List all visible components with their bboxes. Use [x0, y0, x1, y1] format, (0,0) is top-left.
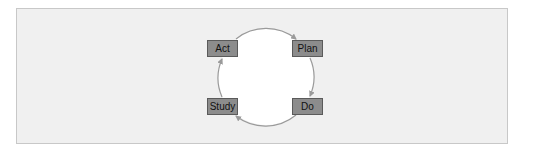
node-plan: Plan — [292, 40, 323, 57]
node-do: Do — [292, 98, 323, 115]
node-study: Study — [207, 98, 238, 115]
node-act: Act — [207, 40, 238, 57]
cycle-diagram — [0, 0, 542, 152]
